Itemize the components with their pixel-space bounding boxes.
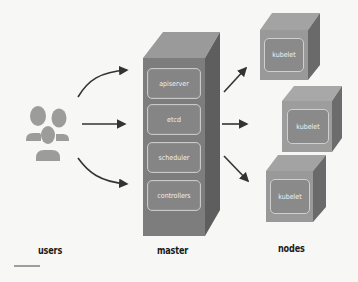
component-etcd: etcd [147, 104, 201, 135]
arrow-users-to-apiserver [78, 70, 127, 97]
label-users: users [38, 244, 62, 257]
kubelet-node-3: kubelet [270, 179, 310, 214]
kubelet-node-1: kubelet [264, 38, 304, 72]
arrow-master-to-node-3 [224, 156, 248, 181]
kubelet-node-2: kubelet [287, 109, 329, 144]
component-apiserver: apiserver [147, 68, 201, 99]
arrow-master-to-node-1 [224, 68, 246, 92]
component-controllers: controllers [147, 180, 201, 211]
arrow-users-to-controllers [78, 158, 127, 184]
component-scheduler: scheduler [147, 142, 201, 173]
label-nodes: nodes [278, 242, 305, 255]
label-master: master [157, 244, 188, 257]
users-icon [26, 106, 69, 161]
